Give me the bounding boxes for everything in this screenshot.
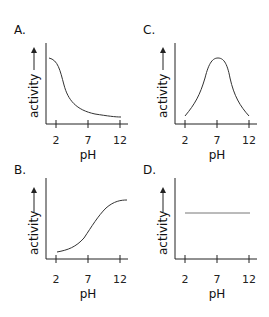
y-axis-label: activity (156, 211, 170, 255)
panel-d: D. 2 7 12 pH activity (143, 163, 257, 301)
y-axis-label: activity (27, 74, 41, 118)
panel-label: B. (14, 163, 26, 177)
panel-a: A. 2 7 12 pH activity (14, 23, 128, 162)
x-axis-label: pH (209, 287, 226, 301)
tick-label: 12 (113, 273, 127, 286)
panel-label: D. (143, 163, 156, 177)
x-axis-label: pH (80, 148, 97, 162)
enzyme-ph-diagram: A. 2 7 12 pH activity C. 2 7 12 pH activ… (0, 0, 269, 317)
activity-curve (185, 58, 249, 116)
panel-label: C. (143, 23, 155, 37)
x-axis-label: pH (80, 287, 97, 301)
tick-label: 7 (214, 273, 221, 286)
tick-label: 2 (53, 134, 60, 147)
panel-label: A. (14, 23, 26, 37)
tick-label: 7 (85, 273, 92, 286)
tick-label: 7 (85, 134, 92, 147)
activity-curve (57, 200, 127, 252)
tick-label: 2 (182, 273, 189, 286)
tick-label: 12 (242, 273, 256, 286)
tick-label: 7 (214, 134, 221, 147)
tick-label: 12 (242, 134, 256, 147)
panel-b: B. 2 7 12 pH activity (14, 163, 128, 301)
y-axis-label: activity (156, 74, 170, 118)
x-axis-label: pH (209, 148, 226, 162)
panel-c: C. 2 7 12 pH activity (143, 23, 257, 162)
tick-label: 2 (182, 134, 189, 147)
activity-curve (49, 58, 121, 117)
y-axis-label: activity (27, 211, 41, 255)
tick-label: 2 (53, 273, 60, 286)
tick-label: 12 (113, 134, 127, 147)
